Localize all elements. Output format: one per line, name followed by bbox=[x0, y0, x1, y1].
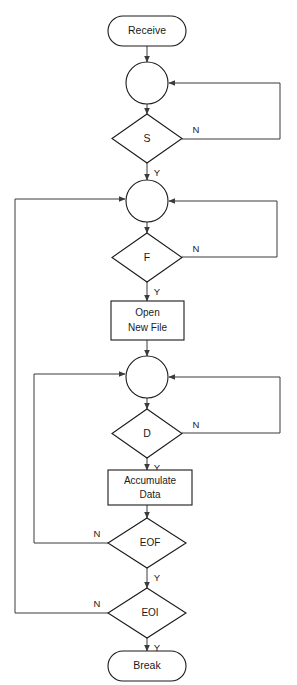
node-receive-label: Receive bbox=[128, 24, 166, 36]
node-accumulate-data-label-line2: Data bbox=[139, 489, 161, 500]
flowchart-svg: Receive S N Y F N Y Open New File D N Y … bbox=[0, 0, 297, 685]
edge-decision-f-no-loop bbox=[169, 201, 277, 257]
edge-label-f-no: N bbox=[193, 243, 200, 254]
edge-label-eoi-no: N bbox=[94, 598, 101, 609]
edge-label-f-yes: Y bbox=[154, 286, 161, 297]
node-open-new-file-label-line1: Open bbox=[135, 307, 159, 318]
edge-label-eof-yes: Y bbox=[154, 572, 161, 583]
node-decision-s-label: S bbox=[143, 132, 150, 144]
edge-label-s-yes: Y bbox=[154, 167, 161, 178]
edge-eof-no-loop bbox=[34, 374, 125, 543]
node-decision-eof-label: EOF bbox=[140, 537, 161, 548]
node-break-label: Break bbox=[133, 659, 161, 671]
node-connector1[interactable] bbox=[126, 62, 168, 104]
node-connector3[interactable] bbox=[126, 356, 168, 398]
node-decision-f-label: F bbox=[144, 251, 150, 263]
edge-decision-d-no-loop bbox=[169, 377, 280, 433]
node-open-new-file-label-line2: New File bbox=[128, 322, 167, 333]
edge-eoi-no-loop bbox=[15, 199, 125, 613]
node-decision-d-label: D bbox=[143, 427, 151, 439]
node-connector2[interactable] bbox=[126, 180, 168, 222]
flowchart-canvas: Receive S N Y F N Y Open New File D N Y … bbox=[0, 0, 297, 685]
node-decision-eoi-label: EOI bbox=[141, 607, 158, 618]
node-accumulate-data-label-line1: Accumulate bbox=[124, 475, 177, 486]
edge-decision-s-no-loop bbox=[169, 83, 280, 139]
edge-label-d-no: N bbox=[193, 419, 200, 430]
edge-label-eof-no: N bbox=[94, 528, 101, 539]
edge-label-s-no: N bbox=[193, 124, 200, 135]
